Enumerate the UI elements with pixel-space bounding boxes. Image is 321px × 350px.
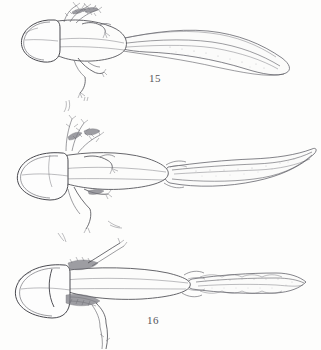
external-gills-16 bbox=[66, 115, 104, 153]
stray-marks-17 bbox=[58, 233, 66, 242]
stray-marks-15 bbox=[64, 97, 88, 112]
head-17 bbox=[15, 265, 70, 318]
figure-17-drawing bbox=[0, 233, 321, 350]
figure-caption-15: 15 bbox=[149, 72, 161, 84]
head-15 bbox=[21, 20, 60, 62]
figure-16-drawing bbox=[0, 115, 321, 233]
hindlimb-16 bbox=[68, 187, 112, 233]
figure-15-drawing bbox=[0, 0, 321, 115]
trunk-15 bbox=[50, 20, 126, 61]
hindlimb-17 bbox=[92, 303, 110, 349]
figure-16: 16 bbox=[0, 115, 321, 233]
illustration-plate: 15 bbox=[0, 0, 321, 350]
figure-15: 15 bbox=[0, 0, 321, 115]
hindlimb-15 bbox=[74, 58, 107, 98]
trunk-16 bbox=[56, 153, 168, 190]
stray-marks-16 bbox=[108, 221, 122, 228]
tail-fin-17 bbox=[188, 273, 307, 293]
head-16 bbox=[17, 153, 68, 200]
figure-17: 17 bbox=[0, 233, 321, 350]
